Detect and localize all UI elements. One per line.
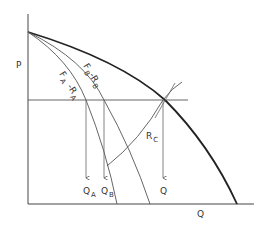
q-label: Q <box>160 187 167 196</box>
qa-label: QA <box>83 187 96 196</box>
qa-sub: A <box>91 191 96 199</box>
q-main: Q <box>160 186 167 196</box>
qb-label: QB <box>101 187 114 196</box>
rc-label: RC <box>146 132 158 141</box>
rc-line <box>107 82 182 166</box>
y-axis-label: P <box>16 61 21 70</box>
fb-rb-curve <box>28 32 150 204</box>
qb-sub: B <box>109 191 114 199</box>
cross-line <box>155 83 175 118</box>
rc-main: R <box>146 131 152 141</box>
x-axis-label: Q <box>197 210 204 219</box>
qb-main: Q <box>101 186 108 196</box>
qa-main: Q <box>83 186 90 196</box>
supply-demand-diagram <box>0 0 268 229</box>
rc-sub: C <box>153 136 158 144</box>
